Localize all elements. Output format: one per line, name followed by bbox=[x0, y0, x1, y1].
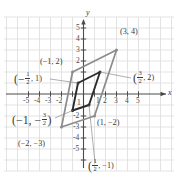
y-tick-label-5: 5 bbox=[76, 24, 80, 32]
paren-open: (−1, − bbox=[12, 113, 41, 127]
x-tick-label--3: -3 bbox=[45, 97, 51, 105]
fraction-1-2: 12 bbox=[92, 158, 97, 173]
x-tick-label-1: 1 bbox=[96, 97, 100, 105]
fraction-3-2: 32 bbox=[137, 70, 142, 85]
leader-3over2-2 bbox=[100, 72, 131, 78]
coordinate-plane-figure: -5 -4 -3 -2 2 3 4 5 5 4 3 2 -2 -3 -4 -5 … bbox=[0, 0, 177, 186]
x-tick-label--2: -2 bbox=[56, 97, 62, 105]
y-tick-label--5: -5 bbox=[73, 145, 79, 153]
y-tick-label--1: 1 bbox=[77, 99, 81, 107]
x-axis-arrow bbox=[161, 92, 167, 96]
label-tail: , −1) bbox=[98, 161, 114, 170]
fraction-1-2: 12 bbox=[25, 71, 30, 86]
point-label-1over2--1: (12, −1) bbox=[88, 158, 114, 173]
y-tick-label--4: -4 bbox=[73, 134, 79, 142]
x-tick-label-5: 5 bbox=[136, 97, 140, 105]
y-axis-label: y bbox=[86, 9, 90, 17]
leader-nhalf-1 bbox=[50, 79, 78, 83]
outer-parallelogram bbox=[62, 50, 117, 127]
x-tick-label--5: -5 bbox=[23, 97, 29, 105]
point-label-3-4: (3, 4) bbox=[120, 28, 138, 36]
paren-open: ( bbox=[133, 71, 137, 85]
x-tick-label-3: 3 bbox=[114, 97, 118, 105]
x-tick-label--4: -4 bbox=[34, 97, 40, 105]
paren-open: (− bbox=[14, 72, 25, 86]
point-label--1-2: (−1, 2) bbox=[40, 58, 62, 66]
y-axis-arrow bbox=[81, 19, 85, 25]
label-tail: ) bbox=[48, 113, 52, 127]
fraction-3-2: 32 bbox=[42, 112, 47, 127]
y-tick-label--2: -2 bbox=[73, 112, 79, 120]
x-tick-label-4: 4 bbox=[125, 97, 129, 105]
y-tick-label-3: 3 bbox=[76, 46, 80, 54]
paren-open: ( bbox=[88, 159, 92, 173]
y-tick-label-2: 2 bbox=[76, 57, 80, 65]
label-tail: , 1) bbox=[31, 74, 42, 83]
point-label--2--3: (−2, −3) bbox=[18, 140, 45, 148]
point-label--1--3over2: (−1, −32) bbox=[12, 112, 51, 127]
point-label--1over2-1: (−12, 1) bbox=[14, 71, 42, 86]
x-tick-label-2: 2 bbox=[103, 97, 107, 105]
point-label-3over2-2: (32, 2) bbox=[133, 70, 154, 85]
y-tick-label-4: 4 bbox=[76, 35, 80, 43]
label-tail: , 2) bbox=[143, 73, 154, 82]
point-label-1--2: (1, −2) bbox=[97, 119, 119, 127]
x-axis-label: x bbox=[168, 89, 172, 97]
y-tick-label--3: -3 bbox=[73, 123, 79, 131]
